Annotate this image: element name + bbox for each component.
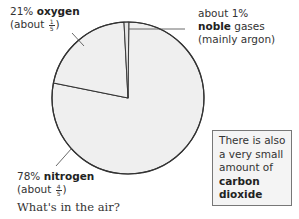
noble-gases-line3: (mainly argon) — [198, 33, 275, 45]
nitrogen-fraction-den: 5 — [56, 191, 62, 197]
oxygen-approx-suffix: ) — [56, 18, 60, 30]
oxygen-label: 21% oxygen (about 15) — [10, 5, 80, 32]
nitrogen-name: nitrogen — [44, 170, 95, 182]
oxygen-percent: 21% — [10, 5, 33, 17]
chart-caption: What's in the air? — [17, 200, 120, 214]
carbon-dioxide-note: There is also a very small amount of car… — [212, 130, 292, 206]
noble-gases-line1: about 1% — [198, 7, 248, 19]
nitrogen-fraction: 45 — [56, 184, 62, 197]
nitrogen-leader-line — [56, 148, 72, 166]
oxygen-fraction: 15 — [49, 19, 55, 32]
note-line3: amount of — [219, 161, 273, 173]
nitrogen-approx-prefix: (about — [17, 183, 51, 195]
noble-gases-rest: gases — [231, 20, 265, 32]
note-line2: a very small — [219, 148, 283, 160]
nitrogen-percent: 78% — [17, 170, 40, 182]
oxygen-name: oxygen — [37, 5, 80, 17]
oxygen-approx-prefix: (about — [10, 18, 44, 30]
nitrogen-label: 78% nitrogen (about 45) — [17, 170, 94, 197]
note-bold1: carbon — [219, 175, 260, 187]
noble-gases-label: about 1% noble gases (mainly argon) — [198, 7, 275, 46]
nitrogen-approx-suffix: ) — [63, 183, 67, 195]
note-line1: There is also — [219, 134, 285, 146]
note-bold2: dioxide — [219, 188, 262, 200]
oxygen-fraction-den: 5 — [49, 26, 55, 32]
noble-gases-bold: noble — [198, 20, 231, 32]
